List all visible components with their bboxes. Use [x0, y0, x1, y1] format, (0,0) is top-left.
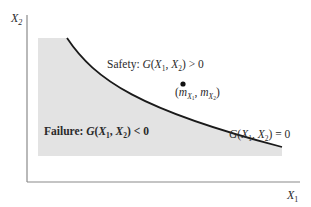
safety-region-label: Safety: G(X1, X2) > 0 [107, 58, 204, 73]
y-axis-label: X2 [10, 11, 22, 27]
mean-point-label: (mX1, mX2) [175, 86, 220, 101]
limit-state-diagram: X2 X1 Safety: G(X1, X2) > 0 Failure: G(X… [0, 0, 311, 207]
x-axis-label: X1 [286, 188, 298, 204]
